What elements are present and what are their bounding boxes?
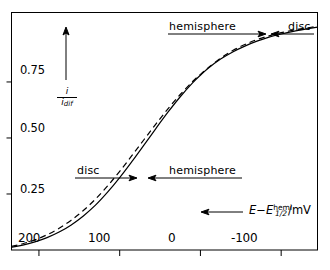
y-axis-label: i idif — [57, 87, 77, 109]
x-tick-label-100: 100 — [88, 232, 110, 244]
annotation-label-mid-hemisphere: hemisphere — [169, 165, 236, 176]
annotation-label-top-disc: disc — [288, 21, 311, 32]
annotation-label-mid-disc: disc — [77, 165, 100, 176]
x-tick-label-200: 200 — [18, 232, 40, 244]
x-axis-label-subscript: 1/2 — [275, 209, 287, 218]
x-tick-label-0: 0 — [168, 232, 175, 244]
y-axis-numerator: i — [57, 87, 77, 96]
voltammogram-figure: 0.75 0.50 0.25 i idif 200 100 0 -100 E−E… — [0, 0, 330, 270]
y-tick-label-025: 0.25 — [20, 184, 45, 196]
x-axis-label-minus: − — [256, 203, 266, 217]
x-tick-label-minus100: -100 — [231, 232, 257, 244]
y-axis-ticks — [7, 82, 12, 194]
y-tick-label-050: 0.50 — [20, 123, 45, 135]
chart-canvas — [0, 0, 330, 270]
x-axis-ticks — [39, 250, 281, 256]
y-tick-label-075: 0.75 — [20, 65, 45, 77]
x-axis-label-unit: /mV — [288, 203, 311, 217]
annotation-label-top-hemisphere: hemisphere — [169, 21, 236, 32]
y-axis-denominator-subscript: dif — [64, 101, 73, 109]
x-axis-label: E−Ehemi1/2/mV — [249, 204, 311, 218]
y-axis-denominator: idif — [57, 98, 77, 109]
